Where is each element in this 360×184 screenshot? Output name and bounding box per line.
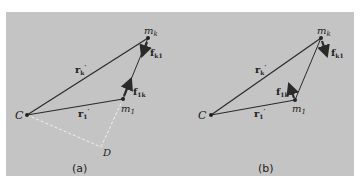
caption-b: (b) xyxy=(258,162,274,175)
label-mk: mk xyxy=(144,25,158,38)
label-c: C xyxy=(15,109,24,122)
point-mk xyxy=(319,36,323,40)
label-rk-prime: rk′ xyxy=(75,63,86,76)
label-mk: mk xyxy=(317,25,331,38)
force-diagram: C m1 mk D r1′ rk′ f1k fk1 (a) C m1 mk r1… xyxy=(0,0,360,184)
label-m1: m1 xyxy=(121,103,135,116)
point-m1 xyxy=(121,97,125,101)
label-d: D xyxy=(102,147,111,158)
force-fk1-arrow xyxy=(322,41,327,56)
label-r1-prime: r1′ xyxy=(78,107,89,120)
label-c: C xyxy=(198,109,207,122)
caption-a: (a) xyxy=(72,162,87,175)
force-f1k-arrow xyxy=(289,84,294,98)
panel-b: C m1 mk r1′ rk′ f1k fk1 (b) xyxy=(198,25,344,175)
vector-r1-prime xyxy=(211,100,295,115)
point-c xyxy=(209,113,213,117)
point-mk xyxy=(146,36,150,40)
force-fk1-arrow xyxy=(142,42,147,56)
point-m1 xyxy=(293,98,297,102)
label-fk1: fk1 xyxy=(150,47,163,59)
label-f1k: f1k xyxy=(133,86,146,98)
label-rk-prime: rk′ xyxy=(255,63,266,76)
force-f1k-arrow xyxy=(124,79,131,96)
panel-a: C m1 mk D r1′ rk′ f1k fk1 (a) xyxy=(15,25,163,175)
label-r1-prime: r1′ xyxy=(254,107,265,120)
dashed-line-c-d xyxy=(27,115,101,147)
dashed-line-d-m1 xyxy=(101,99,123,147)
label-m1: m1 xyxy=(292,103,306,116)
vector-r1-prime xyxy=(27,99,123,115)
point-c xyxy=(25,113,29,117)
label-f1k: f1k xyxy=(276,86,289,98)
label-fk1: fk1 xyxy=(331,47,344,59)
